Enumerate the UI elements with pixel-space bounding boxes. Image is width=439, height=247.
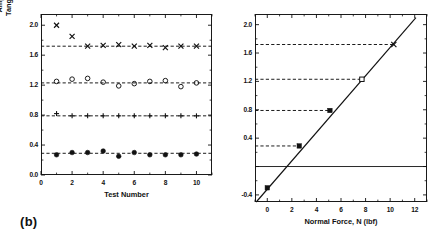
right-y-tick-0.8: 0.8 (231, 106, 252, 113)
right-x-axis-title: Normal Force, N (lbf) (255, 217, 427, 226)
right-x-tick-2: 2 (282, 206, 302, 213)
data-point-s1-8 (179, 84, 184, 89)
left-plot-canvas (41, 14, 212, 175)
data-point-s2-9 (194, 113, 199, 118)
data-point-s0-1 (70, 34, 75, 39)
data-point-s0-0 (54, 23, 59, 28)
left-y-tick-2.0: 2.0 (19, 21, 38, 28)
linear-fit-line (256, 18, 416, 202)
right-y-tick-1.6: 1.6 (231, 49, 252, 56)
left-x-tick-8: 8 (155, 179, 175, 186)
right-y-tick-1.2: 1.2 (231, 77, 252, 84)
data-point-s3-1 (70, 150, 75, 155)
data-point-s1-4 (116, 84, 121, 89)
data-point-s1-7 (163, 78, 168, 83)
right-plot-canvas (255, 14, 427, 202)
data-point-s0-6 (147, 43, 152, 48)
data-point-s2-0 (54, 111, 59, 116)
data-point-s1-2 (85, 76, 90, 81)
data-point-s3-3 (101, 149, 106, 154)
left-y-tick-0.0: 0.0 (19, 171, 38, 178)
data-point-s2-4 (116, 113, 121, 118)
left-x-tick-2: 2 (62, 179, 82, 186)
data-point-s2-2 (85, 113, 90, 118)
data-point-s1-0 (54, 79, 59, 84)
data-point-s2-8 (178, 113, 183, 118)
left-y-tick-0.8: 0.8 (19, 111, 38, 118)
data-point-s1-1 (70, 77, 75, 82)
data-point-s3-4 (116, 154, 121, 159)
right-x-tick-0: 0 (257, 206, 277, 213)
data-point-s0-3 (101, 43, 106, 48)
left-x-axis-title: Test Number (41, 190, 212, 199)
right-x-tick-6: 6 (331, 206, 351, 213)
data-point-s2-7 (163, 113, 168, 118)
data-point-s2-1 (70, 113, 75, 118)
data-point-s2-3 (101, 113, 106, 118)
left-chart-panel (41, 14, 212, 175)
fit-data-point-0 (265, 186, 269, 190)
right-y-tick-2.0: 2.0 (231, 21, 252, 28)
data-point-s1-5 (132, 81, 137, 86)
left-x-tick-6: 6 (124, 179, 144, 186)
data-point-s3-2 (85, 150, 90, 155)
fit-data-point-1 (297, 144, 301, 148)
figure-container: 0.00.40.81.21.62.0 0246810 Amplitude of … (0, 0, 439, 247)
left-x-tick-10: 10 (186, 179, 206, 186)
right-x-tick-8: 8 (356, 206, 376, 213)
fit-data-point-2 (328, 108, 332, 112)
fit-data-point-3 (360, 77, 364, 81)
data-point-s3-8 (179, 152, 184, 157)
data-point-s3-9 (194, 152, 199, 157)
data-point-s2-6 (147, 113, 152, 118)
data-point-s3-6 (148, 152, 153, 157)
right-x-tick-12: 12 (405, 206, 425, 213)
left-y-axis-title: Amplitude of Dynamic Tangential Force, T… (0, 0, 13, 34)
data-point-s2-5 (132, 113, 137, 118)
left-y-tick-0.4: 0.4 (19, 141, 38, 148)
left-x-tick-0: 0 (31, 179, 51, 186)
left-y-tick-1.2: 1.2 (19, 81, 38, 88)
right-x-tick-4: 4 (306, 206, 326, 213)
right-y-tick--0.4: -0.4 (231, 191, 252, 198)
right-chart-panel (255, 14, 427, 202)
left-x-tick-4: 4 (93, 179, 113, 186)
data-point-s0-5 (132, 44, 137, 49)
data-point-s3-5 (132, 150, 137, 155)
data-point-s1-3 (101, 80, 106, 85)
left-y-tick-1.6: 1.6 (19, 51, 38, 58)
right-y-tick-0.4: 0.4 (231, 134, 252, 141)
panel-label-b: (b) (20, 214, 38, 229)
data-point-s3-7 (163, 152, 168, 157)
data-point-s3-0 (54, 152, 59, 157)
right-x-tick-10: 10 (380, 206, 400, 213)
left-y-axis-title-line2: Tangential Force, Tʹ (lbf) (4, 0, 13, 16)
